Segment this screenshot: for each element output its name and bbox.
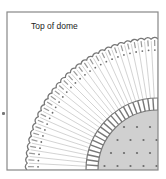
spoke-line xyxy=(29,163,86,166)
ring-dot xyxy=(37,166,39,168)
scallop-tick xyxy=(121,45,123,51)
core-dot xyxy=(149,126,151,128)
core-dot xyxy=(155,165,157,167)
core-dot xyxy=(142,139,144,141)
dome-cross-section xyxy=(0,0,166,179)
inner-ring-segment xyxy=(148,99,150,111)
ring-dot xyxy=(94,67,96,69)
core-dot xyxy=(123,152,125,154)
spoke-line xyxy=(67,79,107,119)
core-dot xyxy=(136,152,138,154)
inner-ring-segment xyxy=(87,160,99,162)
core-dot xyxy=(136,126,138,128)
ring-dot xyxy=(70,86,72,88)
ring-dot xyxy=(154,49,156,51)
side-marker xyxy=(2,112,5,115)
inner-ring-segment xyxy=(119,109,125,119)
ring-dot xyxy=(129,52,131,54)
spoke-line xyxy=(43,111,94,137)
core-dot xyxy=(129,165,131,167)
scallop-tick xyxy=(59,86,64,90)
scallop-tick xyxy=(33,133,39,135)
scallop-tick xyxy=(47,102,52,105)
scallop-tick xyxy=(38,120,44,122)
ring-dot xyxy=(84,74,86,76)
scallop-tick xyxy=(128,44,129,50)
ring-dot xyxy=(38,153,40,155)
ring-dot xyxy=(74,82,76,84)
core-dot xyxy=(142,165,144,167)
scallop-tick xyxy=(30,146,36,147)
core-dot xyxy=(110,152,112,154)
scallop-tick xyxy=(134,42,135,48)
scallop-tick xyxy=(79,67,83,72)
inner-ring-segment xyxy=(93,140,104,145)
ring-dot xyxy=(42,135,44,137)
inner-ring-segment xyxy=(89,150,101,153)
core-dot xyxy=(129,139,131,141)
ring-dot xyxy=(58,101,60,103)
inner-ring-segment xyxy=(153,98,154,110)
dome-group xyxy=(25,37,166,179)
core-dot xyxy=(116,165,118,167)
scallop-tick xyxy=(141,41,142,47)
inner-ring-segment xyxy=(133,103,137,114)
top-of-dome-label: Top of dome xyxy=(31,21,78,31)
inner-ring-segment xyxy=(97,131,107,137)
inner-ring-segment xyxy=(95,135,106,141)
scallop-tick xyxy=(64,81,68,85)
scallop-tick xyxy=(69,76,73,80)
scallop-tick xyxy=(51,96,56,99)
ring-dot xyxy=(89,70,91,72)
inner-ring-segment xyxy=(86,165,98,166)
ring-dot xyxy=(160,49,162,51)
inner-ring-segment xyxy=(128,105,133,116)
core-dot xyxy=(116,139,118,141)
ring-dot xyxy=(79,78,81,80)
scallop-tick xyxy=(44,108,49,111)
spoke-line xyxy=(99,55,125,106)
scallop-tick xyxy=(96,56,99,61)
scallop-tick xyxy=(29,153,35,154)
spoke-line xyxy=(40,118,92,141)
scallop-tick xyxy=(32,140,38,141)
scallop-tick xyxy=(115,47,117,53)
scallop-tick xyxy=(41,114,46,117)
ring-dot xyxy=(111,58,113,60)
inner-ring-segment xyxy=(91,145,102,149)
ring-dot xyxy=(105,61,107,63)
inner-ring-segment xyxy=(123,107,129,118)
ring-dot xyxy=(44,129,46,131)
inner-ring-segment xyxy=(143,100,146,112)
dome-diagram: Top of dome xyxy=(0,0,166,179)
core-dot xyxy=(155,139,157,141)
ring-dot xyxy=(46,123,48,125)
scallop-tick xyxy=(74,71,78,76)
ring-dot xyxy=(141,50,143,52)
inner-ring-segment xyxy=(88,155,100,158)
spoke-line xyxy=(151,41,154,98)
ring-dot xyxy=(148,49,150,51)
ring-dot xyxy=(100,64,102,66)
ring-dot xyxy=(52,112,54,114)
core-dot xyxy=(123,126,125,128)
core-dot xyxy=(103,165,105,167)
core-dot xyxy=(149,152,151,154)
ring-dot xyxy=(135,51,137,53)
scallop-tick xyxy=(84,63,87,68)
ring-dot xyxy=(40,141,42,143)
ring-dot xyxy=(117,56,119,58)
scallop-tick xyxy=(90,59,93,64)
scallop-tick xyxy=(108,50,110,56)
spoke-line xyxy=(106,52,129,104)
scallop-tick xyxy=(35,127,41,129)
ring-dot xyxy=(123,54,125,56)
ring-dot xyxy=(62,96,64,98)
inner-ring-segment xyxy=(138,101,141,113)
scallop-tick xyxy=(55,91,60,95)
ring-dot xyxy=(39,147,41,149)
ring-dot xyxy=(37,160,39,162)
scallop-tick xyxy=(102,53,105,58)
ring-dot xyxy=(55,106,57,108)
ring-dot xyxy=(49,117,51,119)
